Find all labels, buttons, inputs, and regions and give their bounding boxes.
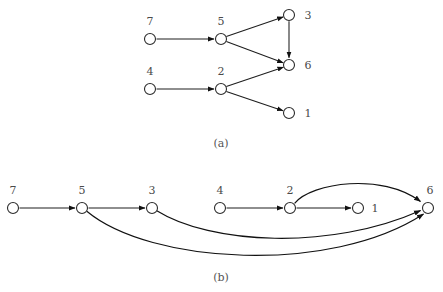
edge-b-2-to-6 [295,183,421,203]
node-b-7[interactable] [8,203,19,214]
node-label-b-7: 7 [10,184,17,197]
node-label-2: 2 [218,65,225,78]
node-label-b-3: 3 [149,184,156,197]
node-label-5: 5 [218,15,225,28]
figure-canvas: 7 5 3 6 4 2 1 (a) [0,0,443,292]
node-1[interactable] [284,108,295,119]
edge-2-to-1 [226,92,283,111]
node-b-1[interactable] [353,203,364,214]
node-b-5[interactable] [77,203,88,214]
node-b-2[interactable] [285,203,296,214]
caption-b: (b) [213,271,229,284]
caption-a: (a) [213,137,228,150]
node-4[interactable] [145,84,156,95]
node-label-1: 1 [305,107,312,120]
node-label-b-2: 2 [287,184,294,197]
edge-b-5-to-6 [87,211,424,255]
node-b-6[interactable] [423,203,434,214]
node-7[interactable] [145,34,156,45]
edge-2-to-6 [226,67,283,86]
edge-5-to-6 [226,42,283,63]
panel-a-edges [157,17,290,111]
node-label-b-5: 5 [79,184,86,197]
node-label-7: 7 [147,15,154,28]
graph-svg: 7 5 3 6 4 2 1 (a) [0,0,443,292]
node-label-b-1: 1 [372,202,379,215]
node-6[interactable] [284,60,295,71]
node-b-4[interactable] [215,203,226,214]
node-3[interactable] [284,10,295,21]
node-label-3: 3 [305,9,312,22]
node-label-4: 4 [147,65,154,78]
node-5[interactable] [216,34,227,45]
node-label-6: 6 [305,59,312,72]
node-b-3[interactable] [147,203,158,214]
edge-b-3-to-6 [157,211,421,239]
node-label-b-6: 6 [427,184,434,197]
node-2[interactable] [216,84,227,95]
node-label-b-4: 4 [217,184,224,197]
edge-5-to-3 [226,17,283,37]
